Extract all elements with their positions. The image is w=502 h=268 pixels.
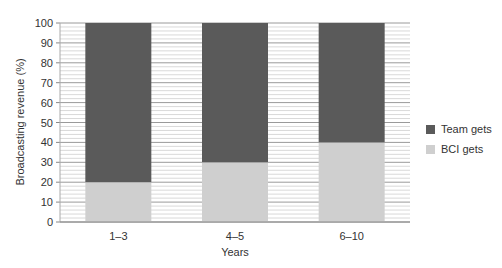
- y-tick-label: 80: [41, 57, 53, 69]
- y-tick-label: 10: [41, 196, 53, 208]
- legend-label: BCI gets: [441, 143, 484, 155]
- y-tick-label: 20: [41, 176, 53, 188]
- x-tick-label: 4–5: [226, 230, 244, 242]
- y-tick-label: 30: [41, 156, 53, 168]
- y-tick-label: 60: [41, 97, 53, 109]
- x-axis: 1–34–56–10: [60, 222, 410, 242]
- y-tick-label: 100: [35, 17, 53, 29]
- bars: [85, 23, 384, 222]
- y-tick-label: 50: [41, 117, 53, 129]
- y-tick-label: 0: [47, 216, 53, 228]
- y-tick-label: 40: [41, 136, 53, 148]
- legend-swatch: [426, 145, 435, 154]
- y-tick-label: 90: [41, 37, 53, 49]
- legend: Team getsBCI gets: [426, 123, 492, 155]
- x-axis-label: Years: [221, 246, 249, 258]
- x-tick-label: 1–3: [109, 230, 127, 242]
- bar-segment-bci-gets: [85, 182, 151, 222]
- bar-segment-bci-gets: [202, 162, 268, 222]
- y-axis-label: Broadcasting revenue (%): [14, 58, 26, 185]
- bar-segment-team-gets: [319, 23, 385, 142]
- bar-segment-team-gets: [85, 23, 151, 182]
- y-tick-label: 70: [41, 77, 53, 89]
- legend-label: Team gets: [441, 123, 492, 135]
- legend-swatch: [426, 125, 435, 134]
- y-axis: 0102030405060708090100: [35, 17, 60, 228]
- x-tick-label: 6–10: [339, 230, 363, 242]
- stacked-bar-chart: 0102030405060708090100 1–34–56–10 Broadc…: [0, 0, 502, 268]
- bar-segment-bci-gets: [319, 142, 385, 222]
- bar-segment-team-gets: [202, 23, 268, 162]
